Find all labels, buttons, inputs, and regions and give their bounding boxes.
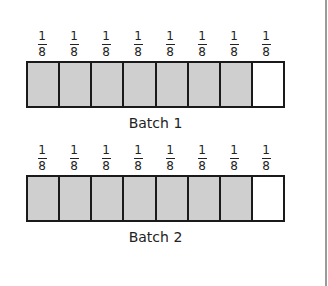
fraction-label: 18 [250, 30, 282, 58]
batch-2-label: Batch 2 [26, 229, 285, 245]
fraction-label: 18 [154, 144, 186, 172]
strip-cell-shaded [189, 63, 221, 106]
strip-cell-shaded [221, 63, 253, 106]
fraction-label: 18 [90, 144, 122, 172]
batch-2-fraction-strip [26, 175, 285, 222]
strip-cell-shaded [189, 177, 221, 220]
strip-cell-shaded [92, 63, 124, 106]
strip-cell-shaded [157, 63, 189, 106]
batch-1-label: Batch 1 [26, 115, 285, 131]
strip-cell-shaded [28, 177, 60, 220]
page-edge-divider [325, 0, 327, 286]
batch-1-fraction-labels: 18 18 18 18 18 18 18 18 [26, 30, 285, 58]
strip-cell-shaded [221, 177, 253, 220]
batch-2-fraction-labels: 18 18 18 18 18 18 18 18 [26, 144, 285, 172]
strip-cell-shaded [60, 63, 92, 106]
fraction-label: 18 [218, 144, 250, 172]
strip-cell-shaded [92, 177, 124, 220]
strip-cell-empty [253, 177, 283, 220]
fraction-label: 18 [186, 30, 218, 58]
fraction-label: 18 [154, 30, 186, 58]
strip-cell-empty [253, 63, 283, 106]
strip-cell-shaded [124, 177, 156, 220]
fraction-label: 18 [58, 144, 90, 172]
fraction-label: 18 [26, 30, 58, 58]
fraction-label: 18 [122, 30, 154, 58]
strip-cell-shaded [28, 63, 60, 106]
fraction-label: 18 [186, 144, 218, 172]
fraction-label: 18 [90, 30, 122, 58]
fraction-label: 18 [58, 30, 90, 58]
fraction-label: 18 [122, 144, 154, 172]
strip-cell-shaded [124, 63, 156, 106]
strip-cell-shaded [157, 177, 189, 220]
fraction-label: 18 [218, 30, 250, 58]
fraction-label: 18 [26, 144, 58, 172]
fraction-label: 18 [250, 144, 282, 172]
strip-cell-shaded [60, 177, 92, 220]
batch-1-fraction-strip [26, 61, 285, 108]
